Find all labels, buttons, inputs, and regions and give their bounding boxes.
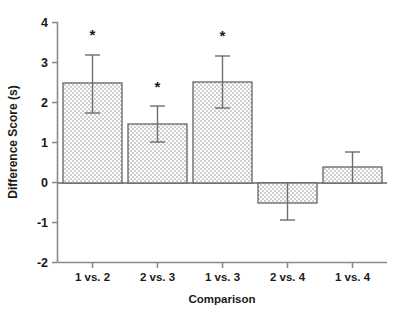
x-tick-label: 2 vs. 4 <box>270 271 306 283</box>
figure-container: 4 3 2 1 0 -1 -2 <box>0 0 401 315</box>
y-tick-label: 0 <box>41 176 48 190</box>
x-axis-title: Comparison <box>188 293 255 305</box>
x-tick-label: 1 vs. 4 <box>335 271 371 283</box>
y-axis-title: Difference Score (s) <box>6 85 20 198</box>
y-tick-labels: 4 3 2 1 0 -1 -2 <box>37 16 48 270</box>
y-tick-label: -2 <box>37 256 48 270</box>
y-tick-label: 3 <box>41 56 48 70</box>
x-tick-label: 2 vs. 3 <box>140 271 175 283</box>
x-tick-label: 1 vs. 2 <box>75 271 110 283</box>
significance-asterisk: * <box>90 26 96 43</box>
y-tick-label: 2 <box>41 96 48 110</box>
significance-asterisk: * <box>155 78 161 95</box>
y-tick-label: 4 <box>41 16 48 30</box>
bar-chart: 4 3 2 1 0 -1 -2 <box>0 0 401 315</box>
significance-asterisk: * <box>220 27 226 44</box>
x-tick-label: 1 vs. 3 <box>205 271 240 283</box>
y-tick-label: -1 <box>37 216 48 230</box>
x-tick-labels: 1 vs. 2 2 vs. 3 1 vs. 3 2 vs. 4 1 vs. 4 <box>75 271 371 283</box>
y-axis <box>52 22 58 263</box>
y-tick-label: 1 <box>41 136 48 150</box>
x-axis <box>58 263 388 269</box>
